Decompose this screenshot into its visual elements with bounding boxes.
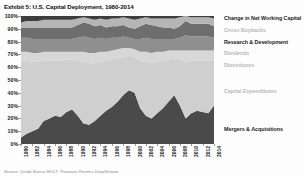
legend-item: Change in Net Working Capital: [224, 15, 301, 21]
y-axis-label: 10%: [8, 128, 18, 134]
y-axis-label: 100%: [5, 13, 18, 19]
source-note: Source: Credit Suisse HOLT, Thomson Reut…: [4, 169, 119, 174]
x-axis-label: 1984: [46, 146, 52, 157]
y-axis-label: 30%: [8, 103, 18, 109]
legend-item: Dividends: [224, 50, 249, 56]
x-axis-tick: [78, 144, 79, 146]
x-axis-tick: [214, 144, 215, 146]
x-axis-label: 1994: [102, 146, 108, 157]
x-axis: 1980198219841986198819901992199419961998…: [21, 146, 214, 164]
y-axis-label: 40%: [8, 90, 18, 96]
y-axis: 0%10%20%30%40%50%60%70%80%90%100%: [0, 12, 20, 148]
x-axis-label: 1980: [23, 146, 29, 157]
x-axis-label: 2006: [171, 146, 177, 157]
x-axis-tick: [203, 144, 204, 146]
x-axis-label: 1992: [91, 146, 97, 157]
x-axis-label: 1982: [34, 146, 40, 157]
chart-legend: Change in Net Working CapitalGross Buyba…: [224, 12, 304, 144]
x-axis-tick: [112, 144, 113, 146]
chart-title: Exhibit 5: U.S. Capital Deployment, 1980…: [4, 3, 134, 10]
y-axis-label: 20%: [8, 115, 18, 121]
y-axis-label: 80%: [8, 39, 18, 45]
stacked-area-chart: [21, 16, 214, 144]
x-axis-label: 2008: [182, 146, 188, 157]
x-axis-label: 2014: [216, 146, 222, 157]
x-axis-tick: [169, 144, 170, 146]
y-axis-label: 90%: [8, 26, 18, 32]
x-axis-label: 1986: [57, 146, 63, 157]
x-axis-tick: [21, 144, 22, 146]
legend-item: Capital Expenditures: [224, 88, 277, 94]
x-axis-label: 2012: [205, 146, 211, 157]
legend-item: Divestitures: [224, 62, 254, 68]
x-axis-tick: [135, 144, 136, 146]
x-axis-tick: [180, 144, 181, 146]
x-axis-label: 2004: [159, 146, 165, 157]
x-axis-tick: [55, 144, 56, 146]
x-axis-label: 1990: [80, 146, 86, 157]
x-axis-label: 2000: [137, 146, 143, 157]
chart-page: Exhibit 5: U.S. Capital Deployment, 1980…: [0, 0, 304, 176]
plot-area: [21, 16, 214, 144]
y-axis-label: 50%: [8, 77, 18, 83]
x-axis-label: 1996: [114, 146, 120, 157]
x-axis-label: 1988: [68, 146, 74, 157]
legend-item: Gross Buybacks: [224, 27, 266, 33]
x-axis-label: 1998: [125, 146, 131, 157]
x-axis-label: 2010: [193, 146, 199, 157]
legend-item: Mergers & Acquisitions: [224, 126, 283, 132]
x-axis-tick: [89, 144, 90, 146]
y-axis-label: 60%: [8, 64, 18, 70]
x-axis-tick: [44, 144, 45, 146]
y-axis-label: 0%: [11, 141, 19, 147]
x-axis-label: 2002: [148, 146, 154, 157]
x-axis-tick: [146, 144, 147, 146]
legend-item: Research & Development: [224, 39, 288, 45]
y-axis-label: 70%: [8, 51, 18, 57]
